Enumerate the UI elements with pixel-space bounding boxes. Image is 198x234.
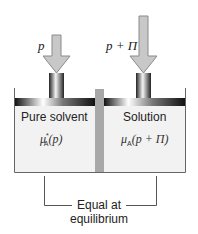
solution-title: Solution: [123, 110, 166, 124]
right-piston-bar: [104, 98, 185, 106]
right-pressure-label: p + Π: [106, 38, 137, 54]
semipermeable-membrane: [95, 89, 104, 172]
equilibrium-label-line2: equilibrium: [62, 212, 136, 226]
left-pressure-label: p: [38, 38, 45, 54]
equilibrium-label-line1: Equal at: [62, 198, 136, 212]
pure-solvent-title: Pure solvent: [21, 110, 88, 124]
left-pressure-arrow-icon: [43, 35, 70, 73]
left-piston-rod: [49, 73, 64, 98]
left-piston-bar: [15, 98, 95, 106]
pure-solvent-chemical-potential: μ*A(p): [40, 132, 62, 147]
right-piston-rod: [136, 73, 151, 98]
equilibrium-label: Equal at equilibrium: [62, 198, 136, 226]
solution-chemical-potential: μA(p + Π): [121, 132, 168, 147]
